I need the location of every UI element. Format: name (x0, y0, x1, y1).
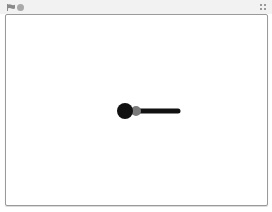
stage-toolbar (0, 0, 272, 14)
sprite-body (117, 103, 133, 119)
stage-footer (0, 207, 272, 212)
stage-canvas[interactable] (5, 14, 268, 206)
sprite[interactable] (6, 15, 267, 205)
stop-icon[interactable] (17, 4, 24, 11)
fullscreen-icon[interactable] (260, 4, 266, 10)
green-flag-icon[interactable] (7, 4, 15, 11)
